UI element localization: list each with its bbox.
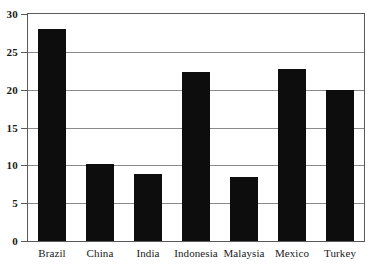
- bar-mexico: [278, 69, 306, 241]
- y-tick-label-0: 0: [0, 236, 18, 247]
- bar-chart: 302520151050 BrazilChinaIndiaIndonesiaMa…: [0, 0, 384, 269]
- y-tick-label-15: 15: [0, 122, 18, 133]
- x-label-mexico: Mexico: [275, 248, 309, 259]
- x-label-turkey: Turkey: [324, 248, 356, 259]
- x-label-indonesia: Indonesia: [174, 248, 218, 259]
- x-label-china: China: [87, 248, 114, 259]
- bar-turkey: [326, 90, 354, 241]
- x-label-brazil: Brazil: [38, 248, 65, 259]
- y-tick-label-5: 5: [0, 198, 18, 209]
- plot-area: [27, 13, 365, 242]
- x-label-malaysia: Malaysia: [223, 248, 264, 259]
- y-tick-label-30: 30: [0, 9, 18, 20]
- bar-india: [134, 174, 162, 241]
- bar-indonesia: [182, 72, 210, 241]
- y-tick-label-25: 25: [0, 46, 18, 57]
- bar-brazil: [38, 29, 66, 241]
- gridline-25: [28, 52, 364, 53]
- y-tick-label-20: 20: [0, 84, 18, 95]
- x-label-india: India: [136, 248, 159, 259]
- gridline-0: [28, 241, 364, 242]
- y-tick-label-10: 10: [0, 160, 18, 171]
- bar-china: [86, 164, 114, 241]
- bar-malaysia: [230, 177, 258, 241]
